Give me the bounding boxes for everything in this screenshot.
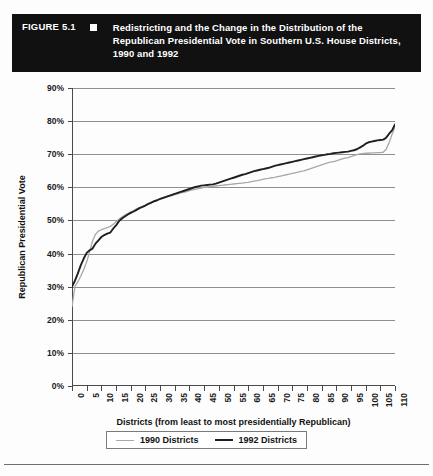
x-tick-mark bbox=[336, 386, 337, 391]
x-tick-mark bbox=[307, 386, 308, 391]
x-tick-label: 10 bbox=[105, 393, 115, 402]
y-axis-title-text: Republican Presidential Vote bbox=[17, 175, 27, 298]
x-tick-label: 0 bbox=[76, 393, 86, 398]
x-tick-mark bbox=[204, 386, 205, 391]
x-tick-label: 65 bbox=[267, 393, 277, 402]
square-bullet-icon bbox=[90, 24, 97, 31]
plot-area: 0%10%20%30%40%50%60%70%80%90% 0510152025… bbox=[72, 88, 395, 386]
x-tick-mark bbox=[263, 386, 264, 391]
x-tick-label: 55 bbox=[238, 393, 248, 402]
series-line bbox=[72, 127, 395, 306]
x-tick-label: 75 bbox=[296, 393, 306, 402]
x-tick-mark bbox=[234, 386, 235, 391]
figure-title-bar: FIGURE 5.1 Redistricting and the Change … bbox=[12, 14, 421, 72]
x-tick-mark bbox=[322, 386, 323, 391]
x-tick-label: 30 bbox=[164, 393, 174, 402]
y-tick-label: 30% bbox=[47, 282, 64, 292]
y-tick-label: 60% bbox=[47, 182, 64, 192]
y-tick-label: 80% bbox=[47, 116, 64, 126]
x-tick-label: 45 bbox=[208, 393, 218, 402]
x-tick-mark bbox=[145, 386, 146, 391]
y-tick-label: 0% bbox=[52, 381, 64, 391]
x-tick-mark bbox=[131, 386, 132, 391]
legend-item: 1990 Districts bbox=[116, 435, 199, 445]
x-tick-mark bbox=[366, 386, 367, 391]
x-tick-label: 100 bbox=[370, 393, 380, 407]
legend-item: 1992 Districts bbox=[215, 435, 298, 445]
x-tick-mark bbox=[351, 386, 352, 391]
x-tick-label: 60 bbox=[252, 393, 262, 402]
x-tick-label: 40 bbox=[193, 393, 203, 402]
x-tick-label: 90 bbox=[340, 393, 350, 402]
x-tick-mark bbox=[380, 386, 381, 391]
legend-swatch-icon bbox=[116, 440, 134, 441]
bottom-divider bbox=[4, 464, 429, 465]
figure-number: FIGURE 5.1 bbox=[22, 21, 76, 34]
x-tick-label: 25 bbox=[149, 393, 159, 402]
legend-label: 1992 Districts bbox=[239, 435, 298, 445]
chart-container: Republican Presidential Vote 0%10%20%30%… bbox=[0, 78, 433, 438]
x-tick-mark bbox=[395, 386, 396, 391]
y-axis-title: Republican Presidential Vote bbox=[14, 88, 30, 386]
x-tick-mark bbox=[278, 386, 279, 391]
x-tick-label: 35 bbox=[179, 393, 189, 402]
x-tick-label: 110 bbox=[399, 393, 409, 407]
x-tick-mark bbox=[101, 386, 102, 391]
y-tick-label: 20% bbox=[47, 315, 64, 325]
x-tick-mark bbox=[175, 386, 176, 391]
y-tick-label: 90% bbox=[47, 83, 64, 93]
figure-title: Redistricting and the Change in the Dist… bbox=[113, 21, 411, 61]
y-tick-label: 40% bbox=[47, 249, 64, 259]
legend-label: 1990 Districts bbox=[140, 435, 199, 445]
x-tick-label: 15 bbox=[120, 393, 130, 402]
y-tick-label: 70% bbox=[47, 149, 64, 159]
x-tick-label: 70 bbox=[282, 393, 292, 402]
x-tick-mark bbox=[116, 386, 117, 391]
x-tick-mark bbox=[292, 386, 293, 391]
x-tick-mark bbox=[219, 386, 220, 391]
y-tick-label: 10% bbox=[47, 348, 64, 358]
series-line bbox=[72, 124, 395, 286]
x-axis-title: Districts (from least to most presidenti… bbox=[72, 417, 395, 427]
x-tick-label: 5 bbox=[91, 393, 101, 398]
x-tick-mark bbox=[189, 386, 190, 391]
x-tick-mark bbox=[72, 386, 73, 391]
x-tick-label: 80 bbox=[311, 393, 321, 402]
x-tick-label: 95 bbox=[355, 393, 365, 402]
chart-legend: 1990 Districts1992 Districts bbox=[106, 431, 307, 449]
x-tick-mark bbox=[248, 386, 249, 391]
y-tick-label: 50% bbox=[47, 215, 64, 225]
x-tick-label: 20 bbox=[135, 393, 145, 402]
x-tick-mark bbox=[160, 386, 161, 391]
series-lines bbox=[72, 88, 395, 386]
x-tick-label: 85 bbox=[326, 393, 336, 402]
x-tick-label: 105 bbox=[384, 393, 394, 407]
figure-root: FIGURE 5.1 Redistricting and the Change … bbox=[0, 0, 433, 476]
x-tick-label: 50 bbox=[223, 393, 233, 402]
x-tick-mark bbox=[87, 386, 88, 391]
legend-swatch-icon bbox=[215, 439, 233, 441]
